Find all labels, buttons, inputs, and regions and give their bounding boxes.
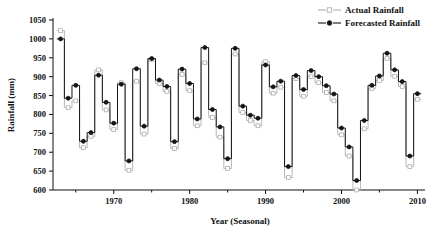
data-point-marker	[81, 146, 85, 150]
data-point-marker	[97, 73, 101, 77]
legend-item[interactable]: Forecasted Rainfall	[318, 18, 421, 28]
data-point-marker	[119, 82, 123, 86]
data-point-marker	[180, 67, 184, 71]
data-point-marker	[203, 61, 207, 65]
y-tick-label: 600	[33, 185, 46, 195]
data-point-marker	[339, 126, 343, 130]
x-axis-ticks: 19701980199020002010	[76, 190, 426, 206]
y-axis-title: Rainfall (mm)	[6, 78, 16, 132]
data-point-marker	[165, 84, 169, 88]
data-point-marker	[256, 116, 260, 120]
data-point-marker	[279, 79, 283, 83]
y-tick-label: 900	[33, 72, 46, 82]
data-point-marker	[317, 81, 321, 85]
data-point-marker	[173, 147, 177, 151]
data-point-marker	[324, 84, 328, 88]
x-tick-label: 2010	[409, 196, 426, 206]
data-point-marker	[332, 99, 336, 103]
y-tick-label: 950	[33, 53, 46, 63]
data-point-marker	[188, 89, 192, 93]
data-point-marker	[416, 97, 420, 101]
data-point-marker	[127, 168, 131, 172]
data-point-marker	[385, 51, 389, 55]
data-point-marker	[241, 111, 245, 115]
data-point-marker	[347, 145, 351, 149]
data-point-marker	[385, 57, 389, 61]
data-point-marker	[112, 121, 116, 125]
x-tick-label: 1980	[181, 196, 198, 206]
data-point-marker	[248, 119, 252, 123]
x-tick-label: 1990	[257, 196, 274, 206]
data-point-marker	[400, 85, 404, 89]
data-point-marker	[233, 52, 237, 56]
data-point-marker	[210, 108, 214, 112]
data-point-marker	[256, 124, 260, 128]
data-point-marker	[112, 128, 116, 132]
data-point-marker	[393, 68, 397, 72]
data-point-marker	[279, 85, 283, 89]
legend-marker	[327, 21, 332, 26]
data-point-marker	[97, 68, 101, 72]
data-point-marker	[89, 134, 93, 138]
data-point-marker	[362, 127, 366, 131]
data-point-marker	[347, 154, 351, 158]
data-point-marker	[66, 106, 70, 110]
data-point-marker	[180, 73, 184, 77]
y-tick-label: 1050	[29, 15, 46, 25]
chart-canvas: 60065070075080085090095010001050 1970198…	[0, 0, 445, 231]
data-point-marker	[370, 83, 374, 87]
data-point-marker	[89, 131, 93, 135]
data-point-marker	[195, 117, 199, 121]
legend-marker	[327, 8, 331, 12]
data-point-marker	[393, 74, 397, 78]
data-point-marker	[172, 140, 176, 144]
x-tick-label: 2000	[333, 196, 350, 206]
y-tick-label: 1000	[29, 34, 46, 44]
data-point-marker	[150, 57, 154, 61]
y-tick-label: 850	[33, 91, 46, 101]
legend-label: Forecasted Rainfall	[345, 18, 421, 28]
data-point-marker	[142, 124, 146, 128]
data-point-marker	[332, 92, 336, 96]
data-point-marker	[135, 67, 139, 71]
legend-label: Actual Rainfall	[345, 5, 404, 15]
data-point-marker	[294, 74, 298, 78]
data-point-marker	[188, 81, 192, 85]
y-tick-label: 750	[33, 128, 46, 138]
data-point-marker	[203, 46, 207, 50]
data-point-marker	[324, 91, 328, 95]
data-point-marker	[317, 75, 321, 79]
data-point-marker	[271, 91, 275, 95]
data-point-marker	[400, 80, 404, 84]
data-point-marker	[355, 179, 359, 183]
data-point-marker	[195, 124, 199, 128]
data-point-marker	[408, 154, 412, 158]
data-point-marker	[271, 85, 275, 89]
data-point-marker	[286, 165, 290, 169]
rainfall-chart-figure: 60065070075080085090095010001050 1970198…	[0, 0, 445, 231]
x-axis-title: Year (Seasonal)	[210, 216, 270, 226]
data-point-marker	[59, 37, 63, 41]
y-tick-label: 800	[33, 109, 46, 119]
data-point-marker	[142, 132, 146, 136]
legend-item[interactable]: Actual Rainfall	[318, 5, 404, 15]
data-point-marker	[165, 90, 169, 94]
data-point-marker	[233, 46, 237, 50]
data-point-marker	[248, 113, 252, 117]
x-tick-label: 1970	[105, 196, 122, 206]
data-point-marker	[302, 94, 306, 98]
data-point-marker	[264, 63, 268, 67]
data-point-marker	[355, 188, 359, 192]
data-point-marker	[135, 79, 139, 83]
y-axis-ticks: 60065070075080085090095010001050	[29, 15, 53, 195]
data-point-marker	[127, 159, 131, 163]
data-point-marker	[362, 118, 366, 122]
data-point-marker	[309, 75, 313, 79]
data-point-marker	[59, 29, 63, 33]
data-point-marker	[211, 116, 215, 120]
chart-legend: Actual RainfallForecasted Rainfall	[318, 5, 421, 28]
data-point-marker	[340, 133, 344, 137]
y-tick-label: 650	[33, 166, 46, 176]
data-point-marker	[74, 83, 78, 87]
data-point-marker	[377, 74, 381, 78]
